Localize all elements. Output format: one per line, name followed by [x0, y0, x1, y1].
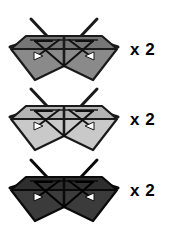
origami-unit-shape: [2, 84, 126, 156]
origami-unit-shape: [2, 155, 126, 227]
quantity-label: x 2: [130, 84, 155, 156]
unit-row: x 2: [0, 155, 175, 227]
unit-row: x 2: [0, 14, 175, 86]
unit-group-2: [10, 160, 118, 221]
quantity-label: x 2: [130, 14, 155, 86]
origami-unit-shape: [2, 14, 126, 86]
unit-row: x 2: [0, 84, 175, 156]
quantity-label: x 2: [130, 155, 155, 227]
unit-group-1: [10, 89, 118, 150]
origami-assembly-diagram: x 2: [0, 0, 175, 238]
unit-group-0: [10, 19, 118, 80]
